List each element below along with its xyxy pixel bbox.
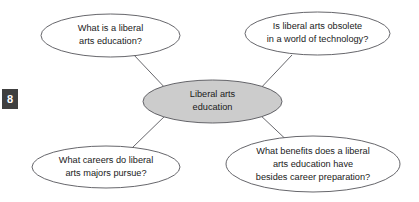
node-bottom-left-line-2: arts majors pursue? <box>65 168 146 178</box>
node-bottom-left-ellipse <box>32 146 180 188</box>
node-bottom-right[interactable]: What benefits does a liberal arts educat… <box>226 136 400 192</box>
cluster-diagram: What is a liberal arts education? Is lib… <box>0 0 419 202</box>
connector-center-to-top-right <box>258 55 292 91</box>
node-bottom-left-line-1: What careers do liberal <box>59 155 153 165</box>
node-top-left[interactable]: What is a liberal arts education? <box>41 14 180 57</box>
node-bottom-right-line-1: What benefits does a liberal <box>256 146 369 156</box>
node-top-right-line-1: Is liberal arts obsolete <box>273 21 362 31</box>
node-bottom-right-line-3: besides career preparation? <box>256 172 370 182</box>
node-top-left-line-1: What is a liberal <box>78 23 143 33</box>
node-top-right-line-2: in a world of technology? <box>267 34 369 44</box>
node-top-right[interactable]: Is liberal arts obsolete in a world of t… <box>245 12 390 55</box>
connector-center-to-top-left <box>133 54 168 91</box>
connector-center-to-bottom-left <box>132 113 168 148</box>
node-bottom-right-line-2: arts education have <box>273 159 353 169</box>
node-bottom-left[interactable]: What careers do liberal arts majors purs… <box>32 146 180 188</box>
node-top-left-line-2: arts education? <box>79 36 142 46</box>
diagram-page: 8 What is a liberal arts education? Is l… <box>0 0 419 202</box>
node-center-line-1: Liberal arts <box>190 89 236 99</box>
node-center-line-2: education <box>193 102 233 112</box>
node-center[interactable]: Liberal arts education <box>143 80 282 123</box>
